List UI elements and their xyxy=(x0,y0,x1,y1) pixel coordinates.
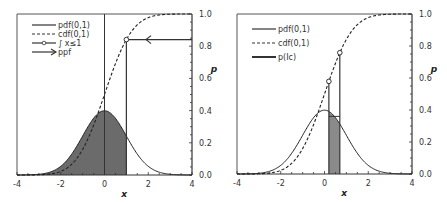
y-tick-label: 0.8 xyxy=(199,42,212,51)
legend-label: p(Ic) xyxy=(278,53,296,62)
x-tick-label: 2 xyxy=(146,180,151,189)
y-tick-label: 0.2 xyxy=(199,139,212,148)
y-axis-title: p xyxy=(210,64,218,74)
legend-label: pdf(0,1) xyxy=(278,25,310,34)
y-axis-title: p xyxy=(430,64,438,74)
chart-panel-1: -4-20240.00.20.40.60.81.0xppdf(0,1)cdf(0… xyxy=(13,10,218,199)
y-tick-label: 0.4 xyxy=(199,107,212,116)
x-tick-label: 0 xyxy=(322,179,327,188)
legend-label: ∫ x≤1 xyxy=(58,39,81,48)
legend-swatch-circle xyxy=(42,41,46,45)
legend-label: pdf(0,1) xyxy=(58,21,90,30)
x-tick-label: -2 xyxy=(57,180,65,189)
chart-figure: -4-20240.00.20.40.60.81.0xppdf(0,1)cdf(0… xyxy=(0,0,447,204)
cdf-point xyxy=(124,37,129,42)
x-axis-title: x xyxy=(340,188,348,198)
x-tick-label: -4 xyxy=(13,180,21,189)
pdf-curve xyxy=(237,110,412,174)
cdf-point xyxy=(327,79,332,84)
x-axis-title: x xyxy=(120,189,128,199)
y-tick-label: 0.0 xyxy=(419,170,432,179)
y-tick-label: 1.0 xyxy=(199,10,212,19)
chart-panel-2: -4-20240.00.20.40.60.81.0xppdf(0,1)cdf(0… xyxy=(233,10,438,198)
legend-label: ppf xyxy=(58,48,71,57)
x-tick-label: 4 xyxy=(409,179,414,188)
legend-label: cdf(0,1) xyxy=(278,39,309,48)
y-tick-label: 0.6 xyxy=(199,74,212,83)
x-tick-label: 4 xyxy=(189,180,194,189)
legend: pdf(0,1)cdf(0,1)p(Ic) xyxy=(252,25,310,62)
y-tick-label: 0.4 xyxy=(419,106,432,115)
legend: pdf(0,1)cdf(0,1)∫ x≤1ppf xyxy=(32,21,90,57)
x-tick-label: 0 xyxy=(102,180,107,189)
x-tick-label: -4 xyxy=(233,179,241,188)
x-tick-label: 2 xyxy=(366,179,371,188)
y-tick-label: 0.2 xyxy=(419,138,432,147)
shaded-area xyxy=(17,111,126,175)
y-tick-label: 1.0 xyxy=(419,10,432,19)
cdf-point xyxy=(338,50,343,55)
y-tick-label: 0.8 xyxy=(419,42,432,51)
y-tick-label: 0.0 xyxy=(199,171,212,180)
y-tick-label: 0.6 xyxy=(419,74,432,83)
legend-label: cdf(0,1) xyxy=(58,30,89,39)
x-tick-label: -2 xyxy=(277,179,285,188)
cdf-curve xyxy=(237,14,412,174)
